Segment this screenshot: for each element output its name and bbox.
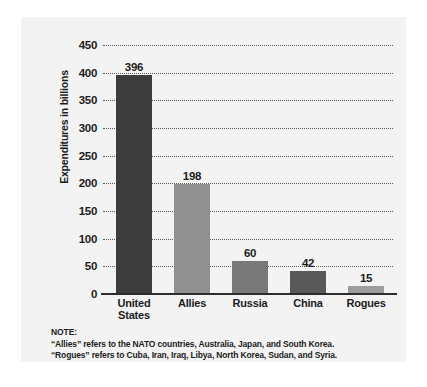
- note-line: “Allies” refers to the NATO countries, A…: [51, 339, 401, 350]
- bar[interactable]: [116, 75, 152, 294]
- y-axis-tick-label: 150: [57, 205, 97, 217]
- bar-value-label: 396: [105, 61, 163, 73]
- x-axis-category-label-line: United: [105, 298, 163, 310]
- x-axis-category-label-line: Russia: [221, 298, 279, 310]
- y-axis-tick-label: 300: [57, 122, 97, 134]
- bar-group: 15: [337, 45, 395, 294]
- y-axis-tick-label: 100: [57, 233, 97, 245]
- plot-area: 396198604215: [103, 45, 393, 294]
- x-axis-category-label-line: Rogues: [337, 298, 395, 310]
- bar-group: 396: [105, 45, 163, 294]
- x-axis-category-label-line: Allies: [163, 298, 221, 310]
- y-axis-tick-label: 50: [57, 260, 97, 272]
- note-block: NOTE: “Allies” refers to the NATO countr…: [51, 327, 401, 361]
- x-axis-category-label-line: States: [105, 310, 163, 322]
- x-axis-category-label: Allies: [163, 298, 221, 310]
- y-axis-tick-label: 400: [57, 67, 97, 79]
- x-axis-category-label: UnitedStates: [105, 298, 163, 321]
- bar-value-label: 42: [279, 257, 337, 269]
- x-axis-category-label: Russia: [221, 298, 279, 310]
- y-axis-tick-label: 350: [57, 94, 97, 106]
- bar-group: 198: [163, 45, 221, 294]
- chart-figure: Expenditures in billions 450400350300250…: [21, 17, 406, 362]
- bar-value-label: 15: [337, 272, 395, 284]
- y-axis-tick-label: 200: [57, 177, 97, 189]
- bar-value-label: 60: [221, 247, 279, 259]
- x-axis-category-label-line: China: [279, 298, 337, 310]
- bar-group: 60: [221, 45, 279, 294]
- y-axis-tick-labels: 450400350300250200150100500: [49, 45, 97, 294]
- bar[interactable]: [290, 271, 326, 294]
- y-axis-tick-label: 250: [57, 150, 97, 162]
- x-axis-category-label: China: [279, 298, 337, 310]
- bar[interactable]: [232, 261, 268, 294]
- x-axis-line: [101, 293, 397, 295]
- note-heading: NOTE:: [51, 327, 401, 337]
- y-axis-tick-label: 0: [57, 288, 97, 300]
- y-axis-tick-label: 450: [57, 39, 97, 51]
- bar-value-label: 198: [163, 170, 221, 182]
- bar-group: 42: [279, 45, 337, 294]
- x-axis-category-label: Rogues: [337, 298, 395, 310]
- note-line: “Rogues” refers to Cuba, Iran, Iraq, Lib…: [51, 350, 401, 361]
- bar[interactable]: [174, 184, 210, 294]
